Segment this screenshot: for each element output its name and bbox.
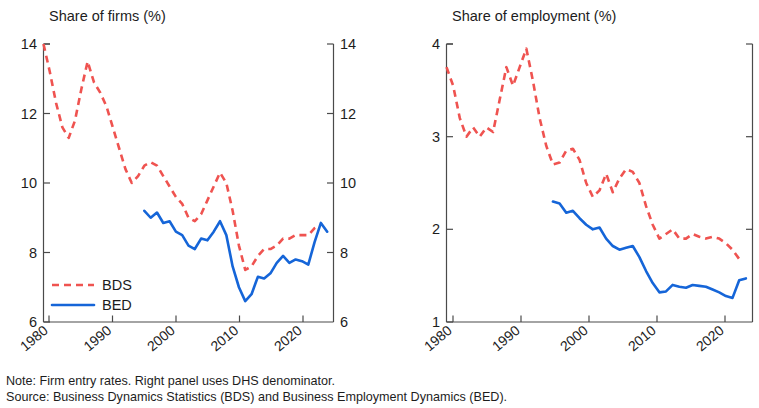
left-panel-ylabel-right-6: 6 (340, 314, 348, 330)
right-panel-xlabel-1990: 1990 (489, 322, 523, 354)
right-panel-ylabel-3: 3 (432, 129, 440, 145)
left-panel-ylabel-right-14: 14 (340, 36, 356, 52)
left-panel: Share of firms (%) 14 12 10 8 (17, 8, 356, 354)
left-panel-title: Share of firms (%) (49, 8, 166, 24)
right-panel-series-bds (447, 49, 740, 259)
left-panel-ylabel-10: 10 (21, 175, 37, 191)
right-panel-xlabel-1980: 1980 (421, 322, 455, 354)
left-panel-ylabel-14: 14 (21, 36, 37, 52)
left-panel-ylabel-right-12: 12 (340, 106, 356, 122)
legend-label-bed: BED (102, 297, 132, 313)
left-panel-xlabel-1990: 1990 (80, 322, 114, 354)
left-panel-ylabel-right-8: 8 (340, 245, 348, 261)
left-panel-xlabel-2010: 2010 (207, 322, 241, 354)
legend-label-bds: BDS (102, 277, 132, 293)
left-panel-ylabel-8: 8 (29, 245, 37, 261)
figure-container: Share of firms (%) 14 12 10 8 (0, 0, 759, 408)
note-text: Note: Firm entry rates. Right panel uses… (6, 374, 335, 388)
right-panel: Share of employment (%) 4 3 2 1 1980 199… (421, 8, 753, 354)
right-panel-title: Share of employment (%) (452, 8, 616, 24)
chart-svg: Share of firms (%) 14 12 10 8 (0, 0, 759, 408)
left-panel-xlabel-2020: 2020 (271, 322, 305, 354)
right-panel-xlabel-2020: 2020 (693, 322, 727, 354)
legend: BDS BED (52, 277, 132, 313)
left-panel-ylabel-right-10: 10 (340, 175, 356, 191)
left-panel-ylabel-12: 12 (21, 106, 37, 122)
right-panel-ylabel-4: 4 (432, 36, 440, 52)
right-panel-xlabel-2000: 2000 (557, 322, 591, 354)
source-text: Source: Business Dynamics Statistics (BD… (6, 390, 507, 404)
left-panel-xlabel-2000: 2000 (144, 322, 178, 354)
right-panel-xlabel-2010: 2010 (625, 322, 659, 354)
right-panel-ylabel-2: 2 (432, 221, 440, 237)
left-panel-xlabel-1980: 1980 (17, 322, 51, 354)
